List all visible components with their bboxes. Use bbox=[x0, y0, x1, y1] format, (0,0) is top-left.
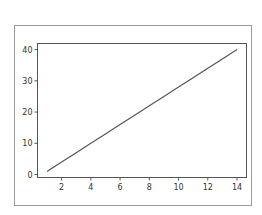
x-tick-label: 6 bbox=[118, 183, 123, 192]
y-tick-label: 10 bbox=[22, 139, 32, 148]
y-tick-label: 30 bbox=[22, 77, 32, 86]
y-tick-label: 0 bbox=[27, 171, 32, 180]
x-tick-label: 2 bbox=[59, 183, 64, 192]
x-tick-label: 14 bbox=[232, 183, 242, 192]
y-tick-label: 20 bbox=[22, 108, 32, 117]
x-tick-label: 4 bbox=[88, 183, 93, 192]
y-tick-label: 40 bbox=[22, 46, 32, 55]
x-tick-label: 12 bbox=[203, 183, 213, 192]
line-chart: 010203040 2468101214 bbox=[0, 0, 262, 215]
x-tick-label: 8 bbox=[147, 183, 152, 192]
x-tick-label: 10 bbox=[173, 183, 183, 192]
